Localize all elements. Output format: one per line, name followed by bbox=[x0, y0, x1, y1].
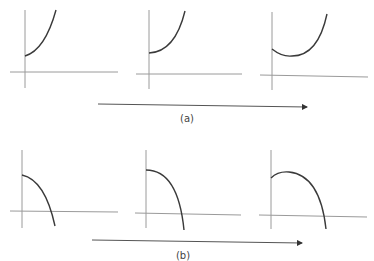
panel-b2 bbox=[135, 150, 241, 230]
panel-a2 bbox=[136, 10, 242, 89]
curve bbox=[271, 172, 326, 229]
curve bbox=[149, 11, 185, 53]
x-axis bbox=[135, 213, 241, 215]
curve bbox=[146, 170, 184, 230]
row-label-b: (b) bbox=[176, 250, 190, 261]
curve bbox=[272, 14, 327, 56]
panel-a1 bbox=[10, 10, 118, 88]
panel-a3 bbox=[260, 12, 368, 90]
progression-arrow-b bbox=[92, 240, 302, 243]
curve bbox=[25, 10, 56, 56]
x-axis bbox=[10, 211, 118, 212]
x-axis bbox=[259, 215, 367, 217]
x-axis bbox=[260, 75, 368, 77]
curve bbox=[22, 175, 55, 226]
panel-b3 bbox=[259, 150, 367, 229]
row-label-a: (a) bbox=[180, 113, 194, 124]
panel-b1 bbox=[10, 150, 118, 228]
progression-arrow-a bbox=[98, 104, 307, 107]
